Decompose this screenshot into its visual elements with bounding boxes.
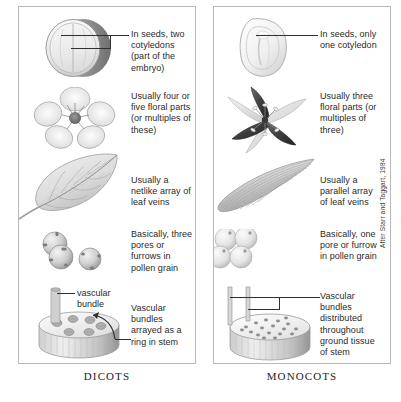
caption-dicots: DICOTS (18, 370, 196, 382)
monocot-stem-leader-lower (248, 309, 280, 310)
panel-dicots: In seeds, two cotyledons (part of the em… (18, 6, 196, 364)
figure-credit: After Starr and Taggart, 1984 (379, 128, 386, 248)
monocot-seed-leader (256, 35, 318, 36)
monocot-stem-leader-upper (230, 297, 280, 298)
dicot-pollen-callout: Basically, three pores or furrows in pol… (131, 229, 194, 274)
dicot-stem-leader (115, 339, 131, 340)
dicot-seed-callout: In seeds, two cotyledons (part of the em… (131, 29, 193, 74)
dicot-stem-callout: Vascular bundles arrayed as a ring in st… (131, 303, 193, 348)
dicot-monocot-comparison-figure: In seeds, two cotyledons (part of the em… (0, 0, 401, 402)
dicot-seed-leader-lower (71, 48, 111, 49)
monocot-pollen-illustration (214, 229, 302, 277)
monocot-flower-callout: Usually three floral parts (or multiples… (320, 91, 384, 136)
dicot-flower-callout: Usually four or five floral parts (or mu… (131, 91, 195, 136)
monocot-stem-leader-bracket (279, 297, 280, 310)
dicot-vascular-bundle-label: vascular bundle (77, 288, 133, 310)
caption-monocots: MONOCOTS (213, 370, 391, 382)
dicot-bundle-leader (57, 293, 75, 294)
monocot-leaf-illustration (214, 157, 318, 219)
monocot-seed-callout: In seeds, only one cotyledon (320, 29, 382, 51)
monocot-flower-illustration (218, 85, 314, 155)
monocot-leaf-callout: Usually a parallel array of leaf veins (320, 175, 382, 209)
dicot-seed-leader-stem (110, 35, 129, 36)
dicot-leaf-callout: Usually a netlike array of leaf veins (131, 175, 193, 209)
panel-monocots: In seeds, only one cotyledon (213, 6, 391, 364)
monocot-stem-callout: Vascular bundles distributed throughout … (320, 291, 384, 358)
monocot-stem-leader-stem (279, 297, 320, 298)
dicot-seed-leader-bracket (110, 35, 111, 49)
monocot-seed-illustration (222, 15, 306, 81)
monocot-pollen-callout: Basically, one pore or furrow in pollen … (320, 229, 382, 263)
dicot-leaf-illustration (17, 149, 125, 221)
dicot-flower-illustration (29, 87, 121, 149)
dicot-pollen-illustration (35, 229, 119, 275)
dicot-seed-leader-upper (61, 35, 111, 36)
